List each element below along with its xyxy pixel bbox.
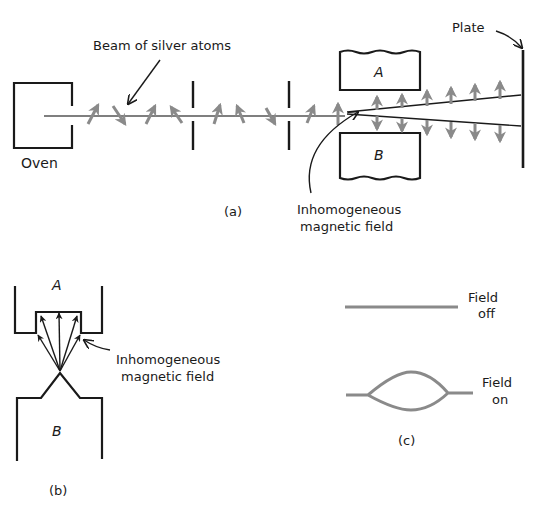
oven-label: Oven — [21, 155, 58, 171]
field-on-label-line2: on — [492, 392, 508, 408]
field-on-trace — [346, 372, 473, 410]
panel-a — [14, 31, 523, 193]
stern-gerlach-diagram — [0, 0, 535, 506]
field-on-label-line1: Field — [482, 375, 512, 391]
magnet-a-label: A — [374, 64, 384, 80]
beam-pointer-arrow — [128, 60, 160, 104]
field-pointer-arrow-b — [84, 340, 110, 350]
field-off-label-line1: Field — [468, 290, 498, 306]
field-lines — [38, 313, 80, 371]
random-spin-arrows — [88, 104, 338, 125]
field-label-b-line2: magnetic field — [121, 369, 214, 385]
field-off-label-line2: off — [478, 306, 495, 322]
panel-b-caption: (b) — [49, 483, 67, 499]
pole-b — [17, 373, 102, 461]
plate-pointer-arrow — [496, 31, 522, 48]
split-beam — [347, 95, 521, 126]
field-label-a-line2: magnetic field — [300, 219, 393, 235]
field-label-b-line1: Inhomogeneous — [116, 352, 220, 368]
magnet-b-label: B — [374, 147, 384, 163]
beam-label: Beam of silver atoms — [93, 38, 231, 54]
field-label-a-line1: Inhomogeneous — [297, 202, 401, 218]
panel-a-caption: (a) — [224, 204, 242, 220]
plate-label: Plate — [452, 20, 485, 36]
field-pointer-arrow — [309, 112, 358, 193]
pole-a-label: A — [52, 277, 62, 293]
panel-c-caption: (c) — [398, 433, 415, 449]
panel-c — [345, 307, 473, 410]
pole-b-label: B — [52, 423, 62, 439]
panel-b — [15, 286, 110, 461]
spin-up-arrows — [377, 82, 500, 110]
pole-a — [15, 286, 102, 333]
